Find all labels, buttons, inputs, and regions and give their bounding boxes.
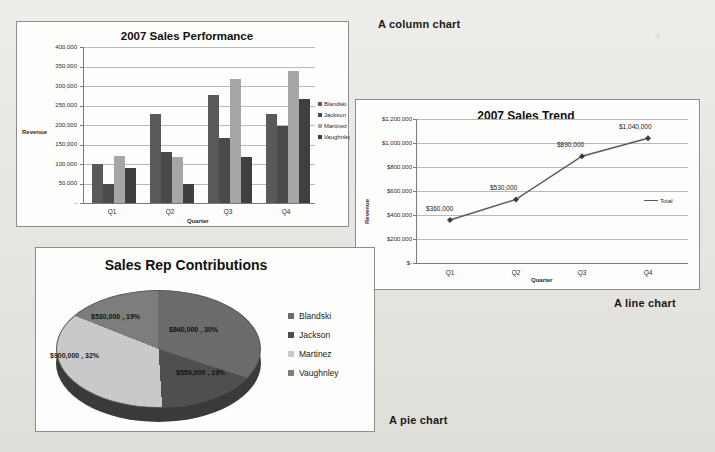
legend-swatch-icon — [318, 135, 322, 139]
x-tick-q3: Q3 — [562, 269, 602, 276]
y-tickmark — [80, 203, 83, 204]
legend-swatch-icon — [318, 124, 322, 128]
y-tick-2: 100,000 — [35, 161, 77, 167]
bar-q3-martinez[interactable] — [230, 79, 241, 203]
legend-item-jackson[interactable]: Jackson — [318, 109, 350, 120]
bar-q1-blandski[interactable] — [92, 164, 103, 203]
pie-slices[interactable] — [56, 290, 261, 408]
bar-q3-blandski[interactable] — [208, 95, 219, 203]
legend-item-total[interactable]: Total — [644, 195, 673, 206]
y-tick-6: 300,000 — [35, 83, 77, 89]
data-label-q1: $360,000 — [426, 205, 453, 212]
bar-q4-jackson[interactable] — [277, 126, 288, 203]
pie-slice-label-jackson: $550,000 , 19% — [176, 369, 225, 376]
y-tickmark — [80, 164, 83, 165]
x-tick-q4: Q4 — [266, 208, 306, 215]
legend-item-jackson[interactable]: Jackson — [288, 325, 339, 344]
pie-chart-title: Sales Rep Contributions — [66, 257, 306, 273]
legend-label-vaughnley: Vaughnley — [299, 368, 339, 378]
legend-item-martinez[interactable]: Martinez — [318, 120, 350, 131]
y-tick-4: 200,000 — [35, 122, 77, 128]
y-tickmark — [80, 47, 83, 48]
y-tick-1: 50,000 — [35, 180, 77, 186]
legend-swatch-icon — [288, 332, 294, 338]
caption-pie-chart: A pie chart — [389, 414, 448, 426]
bar-q2-jackson[interactable] — [161, 152, 172, 203]
column-chart-y-axis-label: Revenue — [22, 129, 47, 135]
pie-slice-label-vaughnley: $530,000 , 19% — [91, 313, 140, 320]
y-tickmark — [80, 67, 83, 68]
data-label-q3: $890,000 — [557, 141, 584, 148]
bar-q2-vaughnley[interactable] — [183, 184, 194, 204]
x-tick-q1: Q1 — [92, 208, 132, 215]
legend-label-blandski: Blandski — [324, 101, 347, 107]
column-chart-title: 2007 Sales Performance — [77, 30, 297, 42]
x-axis-line — [83, 203, 315, 204]
bar-q2-martinez[interactable] — [172, 157, 183, 203]
legend-label-blandski: Blandski — [299, 311, 331, 321]
caption-line-chart: A line chart — [614, 297, 676, 309]
column-chart-panel[interactable]: 2007 Sales Performance Revenue - 50,000 … — [16, 21, 349, 227]
legend-swatch-icon — [288, 370, 294, 376]
y-tickmark — [80, 86, 83, 87]
y-tickmark — [80, 125, 83, 126]
legend-swatch-icon — [318, 113, 322, 117]
line-chart-panel[interactable]: 2007 Sales Trend Revenue $- $200,000 $40… — [355, 99, 700, 290]
legend-swatch-icon — [288, 313, 294, 319]
x-tick-q2: Q2 — [150, 208, 190, 215]
legend-label-total: Total — [660, 198, 673, 204]
legend-item-martinez[interactable]: Martinez — [288, 344, 339, 363]
y-tick-8: 400,000 — [35, 44, 77, 50]
bar-q4-vaughnley[interactable] — [299, 99, 310, 203]
caption-column-chart: A column chart — [378, 18, 460, 30]
x-tick-q1: Q1 — [430, 269, 470, 276]
legend-label-martinez: Martinez — [299, 349, 332, 359]
bar-q4-blandski[interactable] — [266, 114, 277, 203]
y-tick-3: 150,000 — [35, 141, 77, 147]
legend-item-vaughnley[interactable]: Vaughnley — [318, 131, 350, 142]
y-tickmark — [80, 184, 83, 185]
y-tick-5: 250,000 — [35, 102, 77, 108]
pie-slice-label-blandski: $840,000 , 30% — [169, 326, 218, 333]
data-label-q4: $1,040,000 — [619, 123, 652, 130]
y-tickmark — [80, 145, 83, 146]
bar-q1-jackson[interactable] — [103, 184, 114, 204]
legend-item-blandski[interactable]: Blandski — [318, 98, 350, 109]
bar-q1-vaughnley[interactable] — [125, 168, 136, 203]
pie-chart-panel[interactable]: Sales Rep Contributions $840,000 , 30% $… — [35, 247, 375, 432]
bar-q3-vaughnley[interactable] — [241, 157, 252, 203]
column-chart-legend[interactable]: Blandski Jackson Martinez Vaughnley — [318, 98, 350, 142]
pie-slice-label-martinez: $900,000 , 32% — [50, 352, 99, 359]
x-tick-q4: Q4 — [628, 269, 668, 276]
line-chart-x-axis-label: Quarter — [531, 277, 553, 283]
pie-chart-legend[interactable]: Blandski Jackson Martinez Vaughnley — [288, 306, 339, 382]
column-chart-x-axis-label: Quarter — [187, 218, 209, 224]
y-tick-0: - — [35, 200, 77, 206]
bar-q4-martinez[interactable] — [288, 71, 299, 203]
legend-swatch-icon — [318, 102, 322, 106]
legend-swatch-icon — [288, 351, 294, 357]
x-tick-q2: Q2 — [496, 269, 536, 276]
line-chart-legend[interactable]: Total — [644, 195, 673, 206]
legend-line-icon — [644, 200, 658, 201]
column-chart-plot-area — [84, 47, 315, 203]
legend-item-blandski[interactable]: Blandski — [288, 306, 339, 325]
y-tick-7: 350,000 — [35, 63, 77, 69]
y-tickmark — [80, 106, 83, 107]
legend-label-vaughnley: Vaughnley — [324, 134, 350, 140]
legend-item-vaughnley[interactable]: Vaughnley — [288, 363, 339, 382]
legend-label-martinez: Martinez — [324, 123, 347, 129]
legend-label-jackson: Jackson — [299, 330, 330, 340]
bar-q2-blandski[interactable] — [150, 114, 161, 203]
data-label-q2: $530,000 — [490, 184, 517, 191]
legend-label-jackson: Jackson — [324, 112, 346, 118]
bar-q3-jackson[interactable] — [219, 138, 230, 204]
bar-q1-martinez[interactable] — [114, 156, 125, 203]
x-tick-q3: Q3 — [208, 208, 248, 215]
